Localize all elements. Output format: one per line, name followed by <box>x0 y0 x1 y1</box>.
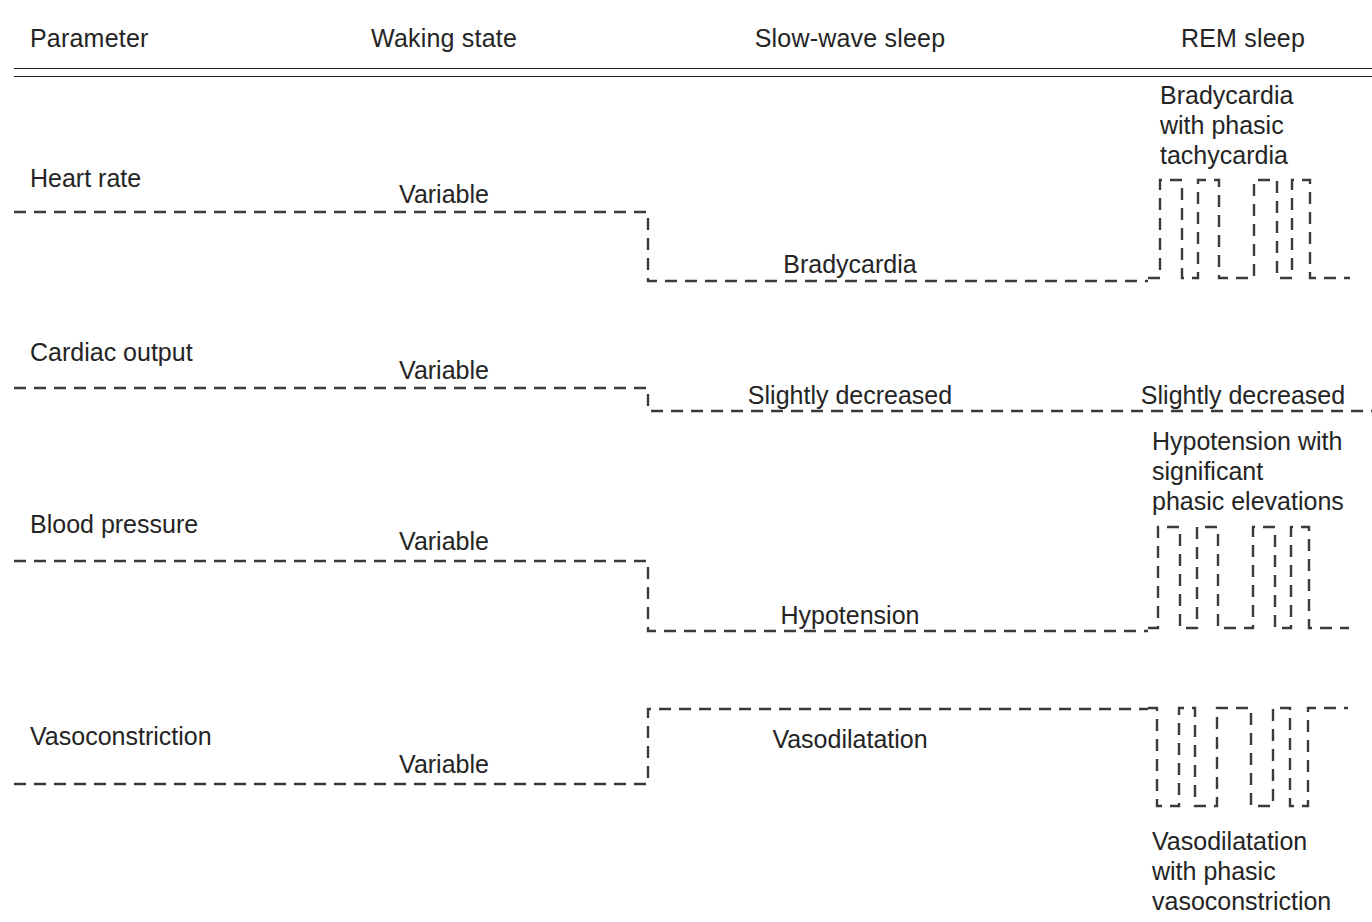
caption-heart-rate-slow-wave: Bradycardia <box>783 250 916 279</box>
caption-line: tachycardia <box>1160 140 1293 170</box>
caption-line: significant <box>1152 456 1344 486</box>
caption-vasoconstriction-rem: Vasodilatation with phasic vasoconstrict… <box>1152 826 1331 916</box>
column-header-waking-state: Waking state <box>371 24 517 53</box>
caption-cardiac-output-rem: Slightly decreased <box>1141 381 1345 410</box>
caption-blood-pressure-rem: Hypotension with significant phasic elev… <box>1152 426 1344 516</box>
sleep-cardiovascular-figure: Parameter Waking state Slow-wave sleep R… <box>0 0 1372 922</box>
trace-heart-rate <box>14 180 1350 281</box>
caption-line: Vasodilatation <box>1152 826 1331 856</box>
trace-vasoconstriction <box>14 708 1348 806</box>
caption-cardiac-output-waking: Variable <box>399 356 489 385</box>
header-rule-lower <box>14 76 1372 77</box>
row-label-vasoconstriction: Vasoconstriction <box>30 722 212 751</box>
caption-blood-pressure-waking: Variable <box>399 527 489 556</box>
caption-heart-rate-waking: Variable <box>399 180 489 209</box>
row-label-heart-rate: Heart rate <box>30 164 141 193</box>
caption-line: with phasic <box>1152 856 1331 886</box>
row-label-cardiac-output: Cardiac output <box>30 338 193 367</box>
caption-cardiac-output-slow-wave: Slightly decreased <box>748 381 952 410</box>
column-header-slow-wave-sleep: Slow-wave sleep <box>755 24 946 53</box>
caption-line: with phasic <box>1160 110 1293 140</box>
trace-blood-pressure <box>14 527 1349 631</box>
caption-blood-pressure-slow-wave: Hypotension <box>781 601 920 630</box>
caption-line: phasic elevations <box>1152 486 1344 516</box>
column-header-rem-sleep: REM sleep <box>1181 24 1305 53</box>
caption-heart-rate-rem: Bradycardia with phasic tachycardia <box>1160 80 1293 170</box>
caption-line: Bradycardia <box>1160 80 1293 110</box>
caption-line: Hypotension with <box>1152 426 1344 456</box>
caption-line: vasoconstriction <box>1152 886 1331 916</box>
header-rule-upper <box>14 68 1372 69</box>
caption-vasoconstriction-slow-wave: Vasodilatation <box>772 725 927 754</box>
caption-vasoconstriction-waking: Variable <box>399 750 489 779</box>
row-label-blood-pressure: Blood pressure <box>30 510 198 539</box>
column-header-parameter: Parameter <box>30 24 149 53</box>
